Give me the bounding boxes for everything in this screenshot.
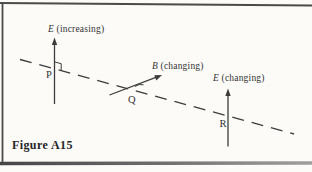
- e-field-symbol: E: [48, 24, 54, 34]
- r-arrowhead: [225, 89, 230, 97]
- point-label-p: P: [46, 69, 52, 80]
- label-b-changing: B(changing): [152, 61, 204, 71]
- frame-bottom-edge: [0, 163, 312, 164]
- e2-field-symbol: E: [213, 73, 219, 83]
- label-e-increasing: E(increasing): [48, 24, 104, 34]
- figure-caption: Figure A15: [12, 138, 73, 153]
- e-field-state: (increasing): [57, 24, 105, 34]
- figure-a15-panel: E(increasing) B(changing) E(changing) P …: [0, 0, 312, 172]
- point-label-q: Q: [128, 94, 136, 105]
- b-field-state: (changing): [161, 61, 204, 71]
- right-angle-marker: [55, 62, 62, 71]
- b-field-symbol: B: [152, 61, 158, 71]
- e2-field-state: (changing): [222, 73, 265, 83]
- label-e-changing: E(changing): [213, 73, 265, 83]
- point-label-r: R: [220, 118, 227, 129]
- frame-top-border: [0, 3, 312, 6]
- q-arrowhead: [154, 75, 162, 81]
- q-field-arrow: [110, 75, 163, 95]
- p-field-arrow: [52, 38, 57, 105]
- p-arrowhead: [52, 38, 57, 46]
